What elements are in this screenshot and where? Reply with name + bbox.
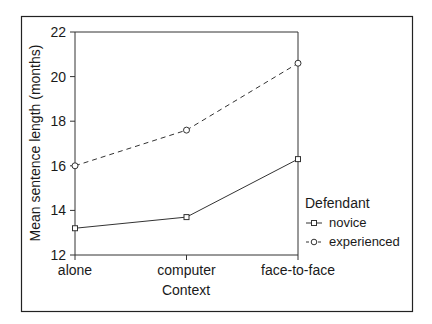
legend-label-novice: novice (329, 215, 367, 230)
legend: Defendant novice experienced (305, 195, 400, 249)
y-tick-label: 14 (50, 202, 66, 218)
circle-marker-icon (311, 239, 317, 245)
legend-item-novice: novice (306, 215, 367, 230)
plot-area (75, 32, 298, 255)
square-marker-icon (312, 221, 317, 226)
y-ticks: 121416182022 (50, 24, 75, 263)
series-line-experienced (75, 63, 298, 166)
y-tick-label: 22 (50, 24, 66, 40)
x-tick-label: computer (157, 262, 216, 278)
data-point-circle (184, 127, 190, 133)
data-point-square (73, 226, 78, 231)
legend-item-experienced: experienced (306, 234, 400, 249)
y-axis-title: Mean sentence length (months) (27, 45, 43, 242)
x-ticks: alonecomputerface-to-face (58, 255, 335, 278)
data-point-square (296, 157, 301, 162)
x-tick-label: alone (58, 262, 92, 278)
x-axis-title: Context (162, 282, 210, 298)
chart: 121416182022 alonecomputerface-to-face C… (0, 0, 432, 324)
legend-title: Defendant (305, 195, 370, 211)
legend-label-experienced: experienced (329, 234, 400, 249)
series-group (72, 60, 301, 231)
data-point-circle (72, 163, 78, 169)
y-tick-label: 16 (50, 158, 66, 174)
data-point-circle (295, 60, 301, 66)
y-tick-label: 12 (50, 247, 66, 263)
data-point-square (184, 215, 189, 220)
x-tick-label: face-to-face (261, 262, 335, 278)
y-tick-label: 18 (50, 113, 66, 129)
y-tick-label: 20 (50, 69, 66, 85)
